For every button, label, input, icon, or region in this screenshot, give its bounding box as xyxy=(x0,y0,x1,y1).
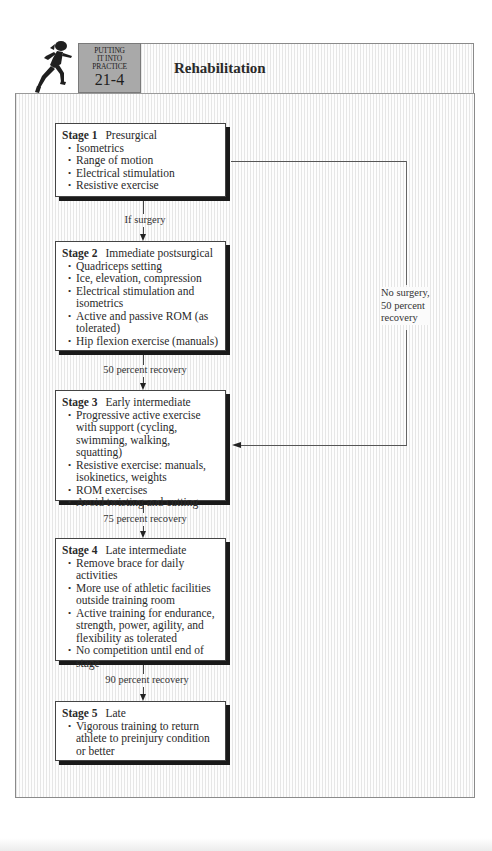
page-title: Rehabilitation xyxy=(174,60,266,77)
stage-item: Electrical stimulation and isometrics xyxy=(68,285,219,310)
stage-name: Late xyxy=(105,707,125,719)
connector-label-if-surgery: If surgery xyxy=(125,214,166,225)
arrow-left-icon xyxy=(232,442,241,448)
connector-1-2-top xyxy=(143,201,144,214)
bypass-label: No surgery, 50 percent recovery xyxy=(381,287,430,325)
arrow-down-icon xyxy=(140,383,146,390)
stage-item: Resistive exercise: manuals, isokinetics… xyxy=(68,459,219,484)
stage-item: No competition until end of stage xyxy=(68,644,219,669)
connector-label-50: 50 percent recovery xyxy=(103,364,186,375)
badge-line3: PRACTICE xyxy=(79,63,140,71)
stage-label: Stage 4 xyxy=(62,544,97,556)
stage-3-box: Stage 3Early intermediate Progressive ac… xyxy=(55,390,226,501)
connector-label-90: 90 percent recovery xyxy=(105,674,188,685)
stage-item: Range of motion xyxy=(68,154,219,167)
stage-label: Stage 2 xyxy=(62,247,97,259)
stage-label: Stage 5 xyxy=(62,707,97,719)
bypass-line-bottom xyxy=(240,445,407,446)
stage-label: Stage 1 xyxy=(62,129,97,141)
bypass-label-line2: 50 percent xyxy=(381,300,430,313)
stage-4-box: Stage 4Late intermediate Remove brace fo… xyxy=(55,538,226,661)
stage-item: Resistive exercise xyxy=(68,179,219,192)
page-edge xyxy=(0,838,492,851)
stage-item: Progressive active exercise with support… xyxy=(68,409,219,459)
badge-number: 21-4 xyxy=(79,72,140,88)
stage-2-box: Stage 2Immediate postsurgical Quadriceps… xyxy=(55,241,226,351)
bypass-label-line1: No surgery, xyxy=(381,287,430,300)
bypass-label-line3: recovery xyxy=(381,312,430,325)
connector-label-75: 75 percent recovery xyxy=(103,513,186,524)
arrow-down-icon xyxy=(140,531,146,538)
stage-item: Quadriceps setting xyxy=(68,260,219,273)
stage-item: Electrical stimulation xyxy=(68,167,219,180)
stage-item: Avoid twisting and cutting xyxy=(68,496,219,509)
stage-item: Ice, elevation, compression xyxy=(68,272,219,285)
bypass-line-top xyxy=(231,161,407,162)
runner-icon xyxy=(28,38,78,94)
stage-item: More use of athletic facilities outside … xyxy=(68,582,219,607)
stage-name: Immediate postsurgical xyxy=(105,247,212,259)
stage-item: ROM exercises xyxy=(68,484,219,497)
stage-item: Active training for endurance, strength,… xyxy=(68,607,219,645)
stage-item: Vigorous training to return athlete to p… xyxy=(68,720,219,758)
arrow-down-icon xyxy=(140,694,146,701)
bypass-line-right-upper xyxy=(406,161,407,285)
stage-1-box: Stage 1Presurgical Isometrics Range of m… xyxy=(55,123,226,197)
section-badge: PUTTING IT INTO PRACTICE 21-4 xyxy=(78,43,141,93)
stage-item: Hip flexion exercise (manuals) xyxy=(68,335,219,348)
stage-name: Early intermediate xyxy=(105,396,190,408)
arrow-down-icon xyxy=(140,234,146,241)
bypass-line-right-lower xyxy=(406,330,407,446)
stage-label: Stage 3 xyxy=(62,396,97,408)
stage-name: Presurgical xyxy=(105,129,157,141)
stage-5-box: Stage 5Late Vigorous training to return … xyxy=(55,701,226,761)
stage-name: Late intermediate xyxy=(105,544,186,556)
stage-item: Active and passive ROM (as tolerated) xyxy=(68,310,219,335)
stage-item: Isometrics xyxy=(68,142,219,155)
stage-item: Remove brace for daily activities xyxy=(68,557,219,582)
